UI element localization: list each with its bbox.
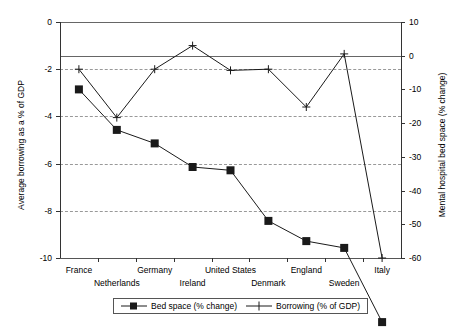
- left-tick-label: 0: [26, 17, 52, 27]
- right-tick: [401, 191, 405, 192]
- x-tick: [287, 258, 288, 262]
- right-axis-line: [401, 22, 402, 258]
- data-point-bed-space: [189, 163, 197, 171]
- right-tick: [401, 89, 405, 90]
- left-tick-label: -10: [26, 253, 52, 263]
- legend-marker-filled-square-line: [121, 301, 147, 311]
- left-tick-label: -2: [26, 64, 52, 74]
- right-tick: [401, 22, 405, 23]
- x-category-label: Ireland: [153, 278, 233, 288]
- right-tick-label: -30: [409, 152, 435, 162]
- x-axis-line: [60, 258, 402, 259]
- left-tick-label: -6: [26, 159, 52, 169]
- x-category-label: France: [39, 265, 119, 275]
- x-tick: [363, 258, 364, 262]
- data-point-bed-space: [302, 237, 310, 245]
- right-tick: [401, 224, 405, 225]
- x-category-label: Netherlands: [77, 278, 157, 288]
- x-category-label: Denmark: [228, 278, 308, 288]
- data-point-bed-space: [75, 85, 83, 93]
- x-tick: [249, 258, 250, 262]
- x-tick: [174, 258, 175, 262]
- right-tick-label: 10: [409, 17, 435, 27]
- x-tick: [136, 258, 137, 262]
- left-tick-label: -4: [26, 111, 52, 121]
- x-category-label: Sweden: [304, 278, 384, 288]
- series-layer: [60, 22, 401, 258]
- x-tick: [98, 258, 99, 262]
- legend-label-bed-space: Bed space (% change): [151, 301, 237, 311]
- legend-item-borrowing: Borrowing (% of GDP): [246, 301, 360, 311]
- data-point-borrowing: [378, 254, 386, 262]
- right-tick: [401, 157, 405, 158]
- data-point-borrowing: [227, 66, 235, 74]
- right-tick: [401, 56, 405, 57]
- data-point-bed-space: [227, 166, 235, 174]
- right-tick: [401, 258, 405, 259]
- data-point-bed-space: [378, 318, 386, 326]
- left-axis-title: Average borrowing as a % of GDP: [16, 60, 26, 230]
- data-point-bed-space: [264, 217, 272, 225]
- chart-container: Average borrowing as a % of GDP Mental h…: [0, 0, 457, 330]
- right-tick: [401, 123, 405, 124]
- data-point-bed-space: [151, 139, 159, 147]
- data-point-bed-space: [113, 126, 121, 134]
- data-point-borrowing: [189, 42, 197, 50]
- left-tick: [56, 258, 60, 259]
- legend-item-bed-space: Bed space (% change): [121, 301, 237, 311]
- right-tick-label: -10: [409, 84, 435, 94]
- plot-area: 0-2-4-6-8-10100-10-20-30-40-50-60FranceN…: [60, 22, 401, 258]
- left-tick-label: -8: [26, 206, 52, 216]
- x-tick: [212, 258, 213, 262]
- legend-marker-plus-line: [246, 301, 272, 311]
- right-tick-label: -60: [409, 253, 435, 263]
- chart-legend: Bed space (% change) Borrowing (% of GDP…: [113, 298, 368, 314]
- legend-label-borrowing: Borrowing (% of GDP): [276, 301, 360, 311]
- x-tick: [325, 258, 326, 262]
- series-line-borrowing: [79, 46, 382, 258]
- right-tick-label: -50: [409, 219, 435, 229]
- x-category-label: Germany: [115, 265, 195, 275]
- right-tick-label: -20: [409, 118, 435, 128]
- data-point-borrowing: [340, 50, 348, 58]
- right-axis-title: Mental hospital bed space (% change): [437, 60, 447, 230]
- x-category-label: England: [266, 265, 346, 275]
- right-tick-label: 0: [409, 51, 435, 61]
- right-tick-label: -40: [409, 186, 435, 196]
- x-category-label: United States: [191, 265, 271, 275]
- data-point-bed-space: [340, 244, 348, 252]
